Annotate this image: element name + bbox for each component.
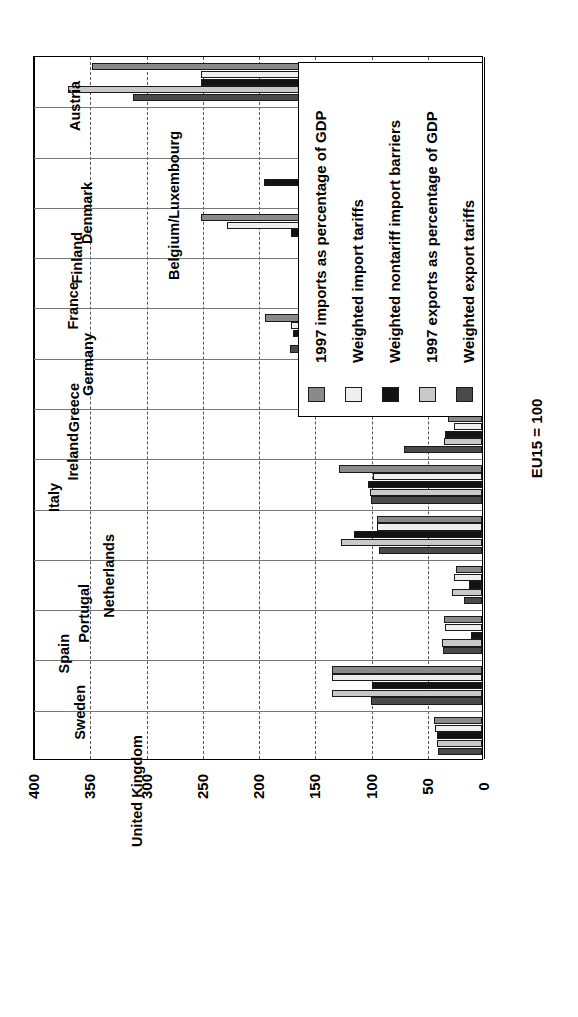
bar (332, 690, 482, 697)
bar (379, 547, 483, 554)
bar (444, 438, 482, 445)
bar (437, 740, 482, 747)
value-tick-0: 0 (475, 765, 492, 809)
legend-item: 1997 imports as percentage of GDP (301, 71, 338, 408)
legend-swatch-icon (308, 387, 325, 402)
value-tick-150: 150 (306, 765, 323, 809)
category-label-france: France (65, 282, 81, 330)
bar (456, 566, 482, 573)
legend-swatch-icon (419, 387, 436, 402)
bar (372, 682, 482, 689)
legend-swatch-icon (456, 387, 473, 402)
category-label-belgium-luxembourg: Belgium/Luxembourg (166, 131, 182, 280)
legend-label: Weighted nontariff import barriers (385, 120, 402, 363)
bar (371, 697, 482, 704)
bar (469, 581, 483, 588)
bar (442, 639, 483, 646)
gridline-200 (259, 57, 260, 759)
legend-label: Weighted import tariffs (348, 199, 365, 363)
category-label-ireland: Ireland (65, 433, 81, 481)
bar (471, 632, 482, 639)
gridline-400 (34, 57, 35, 759)
bar (454, 574, 482, 581)
bar (368, 481, 482, 488)
value-axis-title: EU15 = 100 (528, 379, 545, 499)
legend-item: 1997 exports as percentage of GDP (412, 71, 449, 408)
legend-label: 1997 exports as percentage of GDP (422, 111, 439, 363)
gridline-300 (147, 57, 148, 759)
bar (354, 531, 482, 538)
value-tick-50: 50 (418, 765, 435, 809)
legend-item: Weighted import tariffs (338, 71, 375, 408)
gridline-250 (203, 57, 204, 759)
bar (339, 465, 482, 472)
category-label-germany: Germany (80, 333, 96, 396)
legend-item: Weighted nontariff import barriers (375, 71, 412, 408)
legend-label: 1997 imports as percentage of GDP (311, 110, 328, 363)
bar (341, 539, 482, 546)
bar (404, 446, 482, 453)
bar (435, 725, 482, 732)
bar (370, 489, 483, 496)
bar (332, 666, 482, 673)
legend-swatch-icon (345, 387, 362, 402)
category-label-austria: Austria (67, 81, 83, 131)
gridline-350 (90, 57, 91, 759)
bar (377, 516, 482, 523)
category-label-finland: Finland (69, 232, 85, 284)
bar (434, 717, 482, 724)
category-label-netherlands: Netherlands (101, 534, 117, 618)
value-tick-100: 100 (362, 765, 379, 809)
legend-label: Weighted export tariffs (459, 200, 476, 363)
category-separator (34, 711, 482, 712)
category-label-greece: Greece (66, 383, 82, 432)
bar (445, 431, 482, 438)
category-label-united-kingdom: United Kingdom (129, 735, 145, 847)
bar (444, 616, 482, 623)
chart-legend: 1997 imports as percentage of GDPWeighte… (298, 62, 483, 417)
value-tick-250: 250 (193, 765, 210, 809)
value-tick-400: 400 (25, 765, 42, 809)
value-tick-200: 200 (250, 765, 267, 809)
category-separator (34, 510, 482, 511)
bar (443, 647, 482, 654)
legend-swatch-icon (382, 387, 399, 402)
bar (452, 589, 482, 596)
category-label-italy: Italy (46, 483, 62, 512)
value-tick-350: 350 (81, 765, 98, 809)
bar (438, 748, 482, 755)
bar (437, 732, 482, 739)
bar (332, 674, 482, 681)
bar (377, 523, 482, 530)
category-separator (34, 660, 482, 661)
category-label-sweden: Sweden (72, 685, 88, 740)
bar (454, 423, 482, 430)
category-label-portugal: Portugal (76, 584, 92, 643)
bar (445, 624, 482, 631)
legend-item: Weighted export tariffs (449, 71, 486, 408)
bar (373, 473, 482, 480)
category-label-spain: Spain (56, 634, 72, 673)
bar (371, 496, 482, 503)
bar (464, 597, 482, 604)
category-separator (34, 459, 482, 460)
bar-chart-figure: 050100150200250300350400 AustriaBelgium/… (0, 0, 578, 1017)
